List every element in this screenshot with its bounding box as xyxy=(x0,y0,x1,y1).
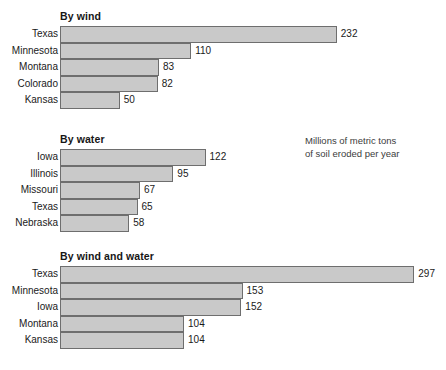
bar-row: Kansas104 xyxy=(0,332,446,349)
bar xyxy=(60,332,184,349)
erosion-bar-chart: By wind Texas232Minnesota110Montana83Col… xyxy=(0,0,446,370)
bar-category-label: Texas xyxy=(32,26,58,43)
bar-row: Texas232 xyxy=(0,26,446,43)
bar-value-label: 65 xyxy=(142,199,153,216)
units-caption-line-1: Millions of metric tons xyxy=(305,135,440,148)
bar-row: Missouri67 xyxy=(0,182,446,199)
bar-row: Minnesota153 xyxy=(0,283,446,300)
bar-row: Minnesota110 xyxy=(0,43,446,60)
bar xyxy=(60,76,158,93)
bar-row: Nebraska58 xyxy=(0,215,446,232)
bar-row: Colorado82 xyxy=(0,76,446,93)
bar-category-label: Iowa xyxy=(37,299,58,316)
bar-value-label: 152 xyxy=(245,299,262,316)
bar xyxy=(60,149,206,166)
bar xyxy=(60,43,191,60)
panel-bars: Texas297Minnesota153Iowa152Montana104Kan… xyxy=(0,266,446,349)
bar-value-label: 82 xyxy=(162,76,173,93)
bar-category-label: Colorado xyxy=(17,76,58,93)
bar-row: Kansas50 xyxy=(0,92,446,109)
bar-row: Iowa152 xyxy=(0,299,446,316)
bar-row: Texas297 xyxy=(0,266,446,283)
bar-value-label: 153 xyxy=(247,283,264,300)
bar-value-label: 67 xyxy=(144,182,155,199)
bar xyxy=(60,299,241,316)
bar xyxy=(60,199,138,216)
bar-category-label: Minnesota xyxy=(12,43,58,60)
panel-bars: Texas232Minnesota110Montana83Colorado82K… xyxy=(0,26,446,109)
bar-category-label: Kansas xyxy=(25,332,58,349)
bar xyxy=(60,59,159,76)
bar-value-label: 104 xyxy=(188,332,205,349)
bar-value-label: 95 xyxy=(177,166,188,183)
bar xyxy=(60,283,243,300)
panel-bars: Iowa122Illinois95Missouri67Texas65Nebras… xyxy=(0,149,446,232)
bar-value-label: 50 xyxy=(124,92,135,109)
bar-value-label: 104 xyxy=(188,316,205,333)
panel-title: By wind and water xyxy=(60,250,154,262)
bar xyxy=(60,215,129,232)
bar-category-label: Minnesota xyxy=(12,283,58,300)
bar-category-label: Iowa xyxy=(37,149,58,166)
bar-value-label: 297 xyxy=(418,266,435,283)
bar-category-label: Montana xyxy=(19,316,58,333)
panel-title: By wind xyxy=(60,10,101,22)
bar-row: Texas65 xyxy=(0,199,446,216)
bar-value-label: 232 xyxy=(341,26,358,43)
bar-value-label: 58 xyxy=(133,215,144,232)
bar-row: Montana104 xyxy=(0,316,446,333)
bar xyxy=(60,92,120,109)
bar-value-label: 83 xyxy=(163,59,174,76)
bar-value-label: 122 xyxy=(210,149,227,166)
bar-category-label: Texas xyxy=(32,199,58,216)
bar-row: Illinois95 xyxy=(0,166,446,183)
bar xyxy=(60,26,337,43)
units-caption: Millions of metric tons of soil eroded p… xyxy=(305,135,440,160)
bar xyxy=(60,316,184,333)
panel-title: By water xyxy=(60,133,105,145)
bar xyxy=(60,266,414,283)
bar-category-label: Nebraska xyxy=(15,215,58,232)
bar-category-label: Kansas xyxy=(25,92,58,109)
bar-category-label: Montana xyxy=(19,59,58,76)
units-caption-line-2: of soil eroded per year xyxy=(305,148,440,161)
bar-category-label: Missouri xyxy=(21,182,58,199)
bar xyxy=(60,182,140,199)
bar xyxy=(60,166,173,183)
bar-category-label: Texas xyxy=(32,266,58,283)
bar-value-label: 110 xyxy=(195,43,211,60)
bar-category-label: Illinois xyxy=(30,166,58,183)
bar-row: Montana83 xyxy=(0,59,446,76)
